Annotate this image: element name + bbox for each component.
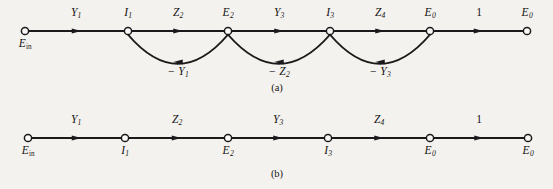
graph-b-node-m5[interactable] <box>524 134 531 141</box>
graph-b-forward-arrowhead-3 <box>374 136 384 141</box>
graph-a-forward-arrowhead-3 <box>375 29 385 34</box>
signal-flow-graph-figure: Y1Z2Y3Z41− Y1− Z2− Y3EinI1E2I3E0E0(a)Y1Z… <box>0 0 553 189</box>
graph-a-feedback-edge-2 <box>330 35 430 64</box>
graph-a-forward-arrowhead-2 <box>274 29 284 34</box>
graph-a-forward-arrowhead-4 <box>474 29 484 34</box>
graph-b-node-m2[interactable] <box>224 134 231 141</box>
graph-b-forward-arrowhead-2 <box>273 136 283 141</box>
graph-b-node-m1[interactable] <box>121 134 128 141</box>
graph-a-node-n3[interactable] <box>326 27 333 34</box>
graph-a-forward-arrowhead-1 <box>173 29 183 34</box>
graph-b-forward-arrowhead-0 <box>72 136 82 141</box>
graph-b-forward-arrowhead-1 <box>172 136 182 141</box>
graph-b-node-m4[interactable] <box>426 134 433 141</box>
graph-a-feedback-edge-1 <box>228 35 330 64</box>
graph-b-forward-arrowhead-4 <box>474 136 484 141</box>
signal-flow-graph-canvas <box>0 0 553 189</box>
graph-a-node-n5[interactable] <box>523 27 530 34</box>
graph-a-feedback-edge-0 <box>128 35 228 64</box>
graph-a-node-n0[interactable] <box>21 27 28 34</box>
graph-a-node-n4[interactable] <box>426 27 433 34</box>
graph-a-node-n1[interactable] <box>124 27 131 34</box>
graph-b-node-m0[interactable] <box>24 134 31 141</box>
graph-a-node-n2[interactable] <box>224 27 231 34</box>
graph-b-node-m3[interactable] <box>324 134 331 141</box>
graph-a-forward-arrowhead-0 <box>72 29 82 34</box>
